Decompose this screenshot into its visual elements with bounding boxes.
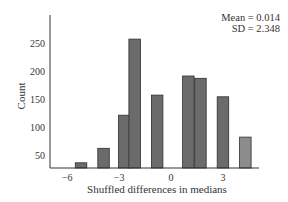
histogram-bar (98, 148, 110, 168)
histogram-bar (217, 97, 229, 168)
bars-group (75, 39, 251, 168)
x-tick-labels: −6−303 (62, 172, 226, 183)
y-tick-label: 200 (30, 66, 45, 77)
x-tick-label: −6 (62, 172, 73, 183)
histogram-bar (129, 39, 141, 168)
x-tick-label: −3 (114, 172, 125, 183)
mean-annotation: Mean = 0.014 (221, 12, 280, 23)
y-tick-label: 50 (35, 150, 45, 161)
y-tick-labels: 50100150200250 (30, 38, 45, 161)
histogram-bar (151, 95, 163, 168)
histogram-bar (75, 163, 87, 168)
histogram-bar (119, 115, 131, 168)
histogram-chart: 50100150200250 −6−303 Shuffled differenc… (0, 0, 288, 202)
x-tick-label: 3 (220, 172, 225, 183)
x-tick-label: 0 (169, 172, 174, 183)
histogram-bar (195, 78, 207, 168)
y-tick-label: 100 (30, 122, 45, 133)
y-tick-label: 150 (30, 94, 45, 105)
histogram-bar (183, 76, 195, 168)
histogram-bar (240, 137, 252, 168)
y-tick-label: 250 (30, 38, 45, 49)
sd-annotation: SD = 2.348 (232, 23, 280, 34)
x-axis-title: Shuffled differences in medians (87, 183, 227, 195)
y-axis-title: Count (15, 83, 27, 110)
